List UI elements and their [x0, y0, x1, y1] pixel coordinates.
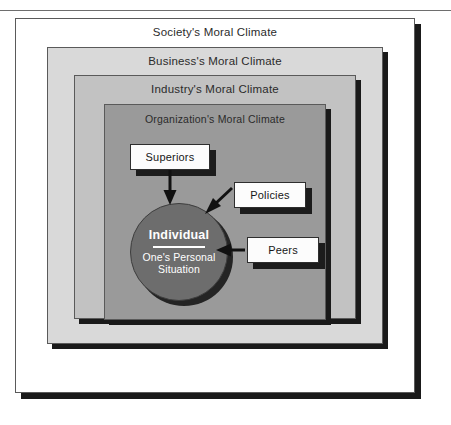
individual-circle-subtitle-line2: Situation	[158, 263, 200, 275]
individual-circle-divider	[153, 246, 205, 248]
superiors-label: Superiors	[146, 151, 195, 163]
business-moral-climate-label: Business's Moral Climate	[48, 55, 382, 67]
superiors-box: Superiors	[130, 144, 210, 170]
individual-circle-subtitle-line1: One's Personal	[143, 251, 216, 263]
peers-box: Peers	[247, 237, 319, 263]
policies-arrow	[205, 188, 232, 214]
individual-circle: Individual One's Personal Situation	[130, 203, 228, 301]
peers-label: Peers	[268, 244, 298, 256]
industry-moral-climate-label: Industry's Moral Climate	[75, 83, 355, 95]
individual-influence-scene: Individual One's Personal Situation Supe…	[104, 104, 326, 320]
policies-box: Policies	[234, 182, 306, 208]
top-rule-divider	[0, 10, 451, 11]
policies-label: Policies	[250, 189, 290, 201]
individual-circle-title: Individual	[149, 229, 209, 243]
society-moral-climate-label: Society's Moral Climate	[16, 26, 414, 38]
moral-climate-diagram: Society's Moral Climate Business's Moral…	[0, 0, 451, 425]
